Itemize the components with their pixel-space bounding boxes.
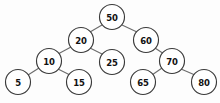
tree-node[interactable]: 5 [6, 70, 31, 95]
tree-edge [181, 69, 195, 75]
tree-edge [28, 68, 39, 75]
node-label: 50 [106, 13, 118, 23]
node-label: 5 [15, 78, 21, 88]
node-label: 70 [166, 57, 178, 67]
tree-node[interactable]: 65 [131, 70, 156, 95]
node-label: 80 [198, 78, 210, 88]
tree-canvas: 5020601025705156580 [0, 0, 220, 103]
tree-edge [58, 69, 70, 75]
node-label: 20 [75, 36, 87, 46]
tree-node[interactable]: 25 [100, 50, 125, 75]
tree-node[interactable]: 20 [69, 28, 94, 53]
tree-node[interactable]: 70 [160, 49, 185, 74]
tree-edge [152, 68, 162, 75]
node-label: 60 [140, 36, 152, 46]
tree-node[interactable]: 80 [192, 70, 217, 95]
tree-node[interactable]: 15 [67, 70, 92, 95]
tree-node[interactable]: 50 [100, 5, 125, 30]
tree-node[interactable]: 60 [134, 28, 159, 53]
node-label: 25 [106, 58, 118, 68]
tree-edge [122, 25, 137, 32]
tree-node[interactable]: 10 [37, 49, 62, 74]
node-label: 10 [43, 57, 55, 67]
binary-tree-diagram: 5020601025705156580 [0, 0, 220, 103]
node-label: 15 [73, 78, 85, 88]
nodes-layer: 5020601025705156580 [6, 5, 217, 95]
node-label: 65 [137, 78, 149, 88]
tree-edge [90, 25, 102, 32]
tree-edge [58, 47, 71, 54]
